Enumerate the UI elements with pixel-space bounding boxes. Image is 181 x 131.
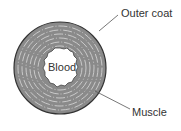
outer-coat-leader-line <box>99 15 118 31</box>
blood-label: Blood <box>48 61 76 73</box>
muscle-leader-line <box>95 91 130 109</box>
outer-coat-label: Outer coat <box>121 7 172 19</box>
muscle-label: Muscle <box>132 106 167 118</box>
